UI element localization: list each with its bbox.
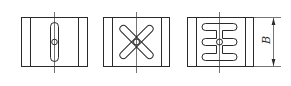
panel-three-horizontal-slots	[188, 12, 254, 73]
block-outline	[188, 18, 254, 67]
panel-x-cross-slots	[104, 12, 170, 73]
arrow-up-icon	[272, 18, 276, 25]
dimension-label: B	[260, 36, 273, 45]
panel-single-vertical-slot	[22, 12, 88, 73]
arrow-down-icon	[272, 59, 276, 66]
slot-pattern-diagram: B	[0, 0, 291, 86]
dimension-b: B	[254, 18, 281, 67]
